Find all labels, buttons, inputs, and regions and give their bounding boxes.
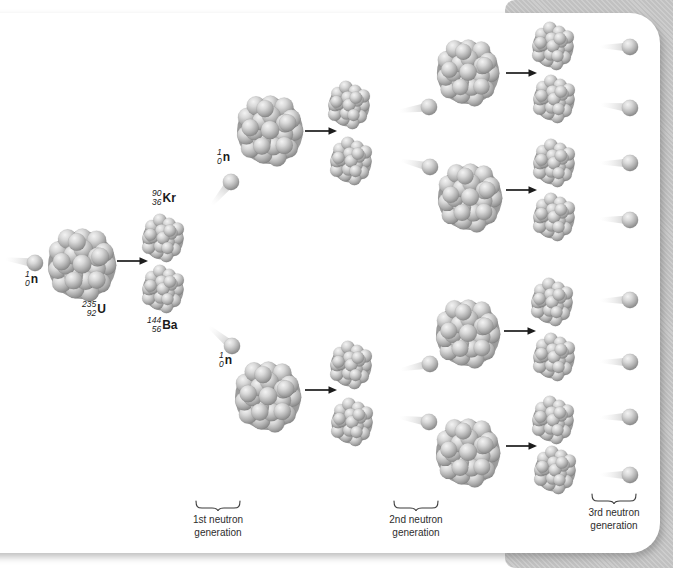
neutron: [622, 467, 638, 483]
neutron: [622, 292, 638, 308]
neutron: [622, 354, 638, 370]
motion-trail: [400, 156, 425, 169]
generation-label-text: 2nd neutron generation: [379, 514, 453, 539]
motion-trail: [399, 104, 424, 115]
generation-label-3: 3rd neutron generation: [569, 493, 659, 532]
neutron: [421, 99, 437, 115]
fission-fragment: [142, 265, 184, 314]
brace-icon: [195, 500, 241, 512]
krypton-90-label: 9036 Kr: [152, 189, 176, 206]
element-symbol: n: [31, 272, 38, 286]
mass-atomic-stack: 10: [219, 351, 224, 368]
fission-fragment: [331, 398, 373, 447]
neutron: [422, 159, 438, 175]
generation-label-1: 1st neutron generation: [173, 500, 263, 539]
neutron: [223, 174, 239, 190]
element-symbol: Kr: [162, 191, 175, 205]
fission-fragment: [533, 333, 575, 382]
fission-arrow-icon: [305, 386, 337, 394]
fission-fragment: [328, 81, 370, 130]
fissionable-nucleus: [436, 300, 500, 369]
element-symbol: n: [225, 353, 232, 367]
atomic-number: 36: [152, 198, 161, 207]
motion-trail: [600, 42, 624, 50]
fission-arrow-icon: [117, 257, 148, 265]
motion-trail: [600, 296, 624, 304]
fissionable-nucleus: [237, 96, 303, 167]
fission-chain-reaction-figure: 10 n 23592 U 9036 Kr 14456 Ba 10 n 10 n …: [0, 0, 673, 568]
neutron: [622, 409, 638, 425]
fission-arrow-icon: [506, 442, 537, 450]
fission-fragment: [533, 139, 575, 188]
fission-arrow-icon: [504, 327, 536, 335]
mass-atomic-stack: 10: [217, 148, 222, 165]
fissionable-nucleus: [235, 362, 301, 433]
atomic-number: 92: [87, 309, 96, 318]
motion-trail: [600, 470, 624, 478]
mass-atomic-stack: 9036: [152, 189, 161, 206]
brace-icon: [591, 493, 637, 505]
neutron-label-upper: 10 n: [217, 148, 230, 165]
mass-atomic-stack: 10: [25, 270, 30, 287]
fissionable-nucleus: [437, 40, 500, 107]
fissionable-nucleus: [438, 164, 502, 233]
neutron-label-initial: 10 n: [25, 270, 38, 287]
motion-trail: [600, 413, 624, 421]
mass-atomic-stack: 14456: [147, 316, 161, 333]
motion-trail: [400, 361, 425, 373]
fission-fragment: [533, 193, 575, 242]
scene-canvas: [0, 0, 673, 568]
uranium-235-nucleus: [48, 229, 116, 302]
neutron: [422, 356, 438, 372]
generation-label-text: 3rd neutron generation: [577, 507, 651, 532]
neutron: [622, 155, 638, 171]
fission-fragment: [142, 214, 184, 263]
neutron: [421, 414, 437, 430]
motion-trail: [600, 215, 624, 224]
fission-fragment: [531, 278, 573, 327]
mass-atomic-stack: 23592: [82, 300, 96, 317]
element-symbol: Ba: [162, 318, 177, 332]
atomic-number: 0: [25, 279, 30, 288]
fission-fragment: [532, 396, 574, 445]
fission-fragment: [532, 22, 574, 71]
motion-trail: [600, 357, 624, 365]
uranium-235-label: 23592 U: [82, 300, 106, 317]
motion-trail: [399, 413, 424, 425]
fission-fragment: [533, 75, 575, 124]
element-symbol: n: [223, 150, 230, 164]
element-symbol: U: [97, 302, 106, 316]
motion-trail: [600, 159, 624, 167]
atomic-number: 0: [217, 157, 222, 166]
fission-fragment: [534, 446, 576, 495]
fission-arrow-icon: [506, 69, 537, 77]
barium-144-label: 14456 Ba: [147, 316, 178, 333]
atomic-number: 0: [219, 360, 224, 369]
neutron: [622, 39, 638, 55]
atomic-number: 56: [152, 325, 161, 334]
motion-trail: [600, 100, 625, 111]
neutron-label-lower: 10 n: [219, 351, 232, 368]
generation-label-text: 1st neutron generation: [181, 514, 255, 539]
brace-icon: [393, 500, 439, 512]
fissionable-nucleus: [436, 419, 500, 488]
fission-fragment: [330, 341, 372, 390]
fission-arrow-icon: [305, 127, 337, 135]
fission-fragment: [330, 137, 372, 186]
fission-arrow-icon: [506, 186, 537, 194]
motion-trail: [5, 255, 30, 266]
neutron: [622, 212, 638, 228]
generation-label-2: 2nd neutron generation: [371, 500, 461, 539]
neutron: [622, 100, 638, 116]
